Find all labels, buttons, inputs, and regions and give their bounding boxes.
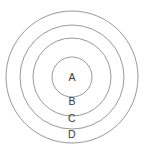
ring-label-a: A [68,71,75,83]
ring-label-d: D [68,128,76,140]
ring-label-b: B [68,95,75,107]
diagram-canvas: A B C D [0,0,152,156]
ring-label-c: C [68,112,76,124]
concentric-circles-diagram: A B C D [0,0,152,156]
